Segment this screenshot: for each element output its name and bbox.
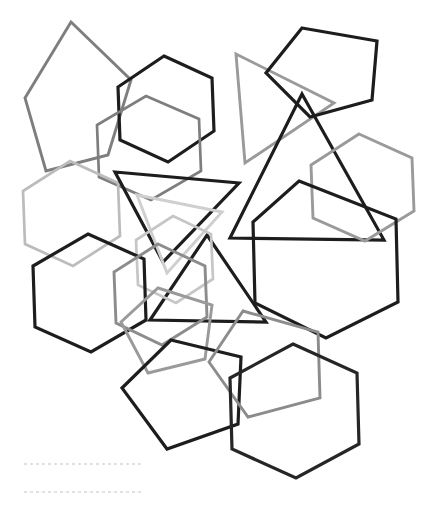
polygon-composition (0, 0, 430, 520)
canvas-background (0, 0, 430, 520)
corner-artifact-mark (2, 1, 7, 8)
figure-canvas (0, 0, 430, 520)
